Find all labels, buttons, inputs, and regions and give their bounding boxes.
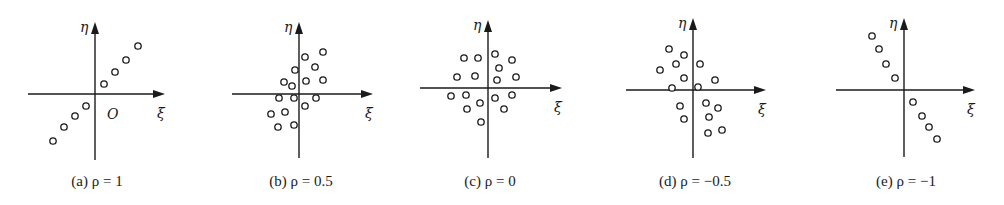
data-point <box>83 103 89 109</box>
data-point <box>282 109 288 115</box>
data-point <box>501 106 507 112</box>
y-axis-label: η <box>678 15 687 31</box>
data-point <box>892 75 898 81</box>
data-point <box>681 116 687 122</box>
x-axis-label: ξ <box>157 105 166 121</box>
data-point <box>934 136 940 142</box>
data-point <box>673 61 679 67</box>
data-point <box>61 124 67 130</box>
data-point <box>697 61 703 67</box>
y-axis-arrow-icon <box>295 22 303 34</box>
x-axis-label: ξ <box>967 101 976 117</box>
data-point <box>657 67 663 73</box>
data-point <box>883 61 889 67</box>
data-point <box>509 92 515 98</box>
data-point <box>461 55 467 61</box>
data-point <box>681 75 687 81</box>
data-point <box>302 103 308 109</box>
data-point <box>472 73 478 79</box>
data-point <box>677 103 683 109</box>
panel-caption: (c) ρ = 0 <box>464 173 515 190</box>
data-point <box>292 67 298 73</box>
data-point <box>494 77 500 83</box>
origin-label: O <box>107 106 119 122</box>
data-point <box>695 84 701 90</box>
y-axis-arrow-icon <box>900 18 908 30</box>
y-axis-label: η <box>889 15 898 31</box>
x-axis-arrow-icon <box>963 86 975 94</box>
x-axis-arrow-icon <box>153 90 165 98</box>
data-point <box>320 49 326 55</box>
data-point <box>719 127 725 133</box>
y-axis-arrow-icon <box>91 22 99 34</box>
data-point <box>463 92 469 98</box>
data-point <box>513 74 519 80</box>
data-point <box>919 113 925 119</box>
data-point <box>705 130 711 136</box>
data-point <box>281 79 287 85</box>
data-point <box>926 124 932 130</box>
data-point <box>910 99 916 105</box>
data-point <box>715 105 721 111</box>
x-axis-arrow-icon <box>361 90 373 98</box>
data-point <box>50 138 56 144</box>
data-point <box>703 100 709 106</box>
scatter-panel-d: ηξ(d) ρ = −0.5 <box>626 15 767 190</box>
x-axis-label: ξ <box>758 101 767 117</box>
scatter-panel-a: ηξO(a) ρ = 1 <box>28 19 166 190</box>
x-axis-arrow-icon <box>550 84 562 92</box>
data-point <box>454 74 460 80</box>
y-axis-label: η <box>284 19 293 35</box>
scatter-panel-c: ηξ(c) ρ = 0 <box>420 17 563 190</box>
data-point <box>123 57 129 63</box>
data-point <box>289 83 295 89</box>
data-point <box>492 51 498 57</box>
scatter-panel-e: ηξ(e) ρ = −1 <box>836 15 976 190</box>
x-axis-label: ξ <box>365 105 374 121</box>
panel-caption: (e) ρ = −1 <box>876 173 936 190</box>
data-point <box>477 100 483 106</box>
y-axis-arrow-icon <box>689 18 697 30</box>
data-point <box>712 77 718 83</box>
data-point <box>681 52 687 58</box>
x-axis-arrow-icon <box>754 86 766 94</box>
x-axis-label: ξ <box>554 99 563 115</box>
data-point <box>112 69 118 75</box>
y-axis-arrow-icon <box>484 20 492 32</box>
data-point <box>303 78 309 84</box>
data-point <box>312 64 318 70</box>
data-point <box>135 43 141 49</box>
data-point <box>478 119 484 125</box>
data-point <box>275 124 281 130</box>
y-axis-label: η <box>473 17 482 33</box>
data-point <box>492 95 498 101</box>
data-point <box>876 46 882 52</box>
data-point <box>869 33 875 39</box>
data-point <box>669 85 675 91</box>
data-point <box>464 106 470 112</box>
data-point <box>72 113 78 119</box>
data-point <box>268 111 274 117</box>
data-point <box>666 46 672 52</box>
data-point <box>320 77 326 83</box>
data-point <box>475 55 481 61</box>
data-point <box>302 54 308 60</box>
y-axis-label: η <box>80 19 89 35</box>
data-point <box>509 57 515 63</box>
data-point <box>276 95 282 101</box>
data-point <box>291 95 297 101</box>
data-point <box>313 95 319 101</box>
scatter-panel-b: ηξ(b) ρ = 0.5 <box>232 19 374 190</box>
panel-caption: (d) ρ = −0.5 <box>659 173 731 190</box>
correlation-scatter-figure: ηξO(a) ρ = 1ηξ(b) ρ = 0.5ηξ(c) ρ = 0ηξ(d… <box>0 0 1004 205</box>
data-point <box>101 81 107 87</box>
panel-caption: (b) ρ = 0.5 <box>269 173 332 190</box>
data-point <box>496 65 502 71</box>
data-point <box>706 114 712 120</box>
panel-caption: (a) ρ = 1 <box>71 173 122 190</box>
data-point <box>448 93 454 99</box>
data-point <box>291 122 297 128</box>
